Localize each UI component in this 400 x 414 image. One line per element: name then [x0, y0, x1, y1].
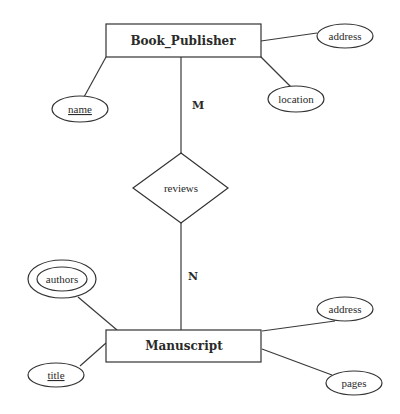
attribute-publisher-address: address [317, 24, 373, 48]
relationship-reviews: reviews [133, 153, 228, 223]
er-diagram: Book_Publisher address name location M r… [0, 0, 400, 414]
entity-book-publisher: Book_Publisher [106, 24, 261, 57]
entity-manuscript: Manuscript [106, 330, 261, 362]
connector-publisher-location [260, 56, 292, 88]
attribute-publisher-location: location [268, 86, 324, 112]
attribute-label: name [68, 103, 92, 115]
attribute-label: location [278, 93, 314, 105]
attribute-manuscript-authors-multivalued: authors [28, 260, 96, 298]
cardinality-n: N [188, 270, 198, 283]
connector-manuscript-authors [78, 297, 117, 330]
attribute-manuscript-address: address [317, 297, 373, 321]
attribute-label: pages [341, 377, 366, 389]
connector-publisher-name [84, 57, 106, 97]
connector-publisher-address [261, 33, 317, 41]
connector-manuscript-address [262, 321, 335, 331]
attribute-manuscript-pages: pages [326, 371, 382, 395]
attribute-label: address [329, 303, 362, 315]
attribute-manuscript-title-key: title [28, 363, 84, 387]
relationship-label: reviews [164, 182, 198, 194]
attribute-label: address [329, 30, 362, 42]
attribute-label: title [47, 369, 64, 381]
connector-manuscript-pages [262, 349, 332, 375]
entity-label: Manuscript [145, 339, 223, 353]
cardinality-m: M [192, 99, 204, 112]
attribute-publisher-name-key: name [52, 96, 108, 122]
connector-manuscript-title [80, 343, 106, 366]
attribute-label: authors [46, 273, 78, 285]
entity-label: Book_Publisher [130, 34, 236, 49]
